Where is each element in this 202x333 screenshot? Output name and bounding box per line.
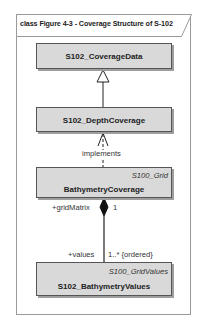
composition-diamond-icon <box>100 198 108 216</box>
class-s102-bathymetryvalues[interactable]: S100_GridValues S102_BathymetryValues <box>36 262 172 296</box>
class-name: S102_BathymetryValues <box>37 282 171 291</box>
generalization-arrowhead-icon <box>97 70 109 82</box>
class-stereotype: S100_GridValues <box>109 267 168 276</box>
class-bathymetrycoverage[interactable]: S100_Grid BathymetryCoverage <box>36 167 172 198</box>
target-role-label: +values <box>68 250 94 259</box>
class-stereotype: S100_Grid <box>132 171 168 180</box>
realization-label: implements <box>82 149 121 158</box>
class-name: S102_DepthCoverage <box>37 116 171 125</box>
source-role-label: +gridMatrix <box>52 203 90 212</box>
class-s102-coveragedata[interactable]: S102_CoverageData <box>36 43 172 69</box>
class-name: BathymetryCoverage <box>37 185 171 194</box>
class-s102-depthcoverage[interactable]: S102_DepthCoverage <box>36 107 172 132</box>
target-multiplicity-label: 1..* {ordered} <box>108 250 153 259</box>
source-multiplicity-label: 1 <box>113 203 117 212</box>
class-name: S102_CoverageData <box>37 52 171 61</box>
